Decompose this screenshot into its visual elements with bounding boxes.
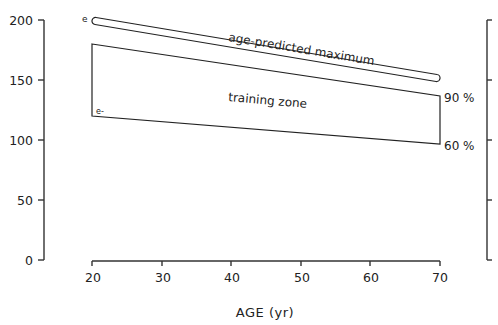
pct60-label: 60 % (444, 139, 475, 153)
heart-rate-chart: 200 150 100 50 0 20 30 40 50 60 70 AGE (… (0, 0, 498, 325)
x-tick-label: 60 (363, 270, 379, 285)
x-tick-label: 50 (294, 270, 310, 285)
y-tick-label: 50 (17, 193, 33, 208)
x-tick-label: 20 (85, 270, 101, 285)
y-tick-label: 100 (9, 133, 33, 148)
x-axis-title: AGE (yr) (236, 305, 294, 320)
e-mark: e (82, 14, 88, 24)
x-tick-label: 30 (155, 270, 171, 285)
y-tick-label: 200 (9, 13, 33, 28)
training-zone: e- training zone 90 % 60 % (92, 44, 475, 153)
y-axis-left: 200 150 100 50 0 (9, 13, 44, 268)
pct90-label: 90 % (444, 91, 475, 105)
age-predicted-maximum-band: e age-predicted maximum (82, 14, 440, 82)
max-label: age-predicted maximum (228, 30, 376, 68)
x-axis: 20 30 40 50 60 70 AGE (yr) (85, 261, 448, 320)
x-tick-label: 70 (432, 270, 448, 285)
y-tick-label: 0 (25, 253, 33, 268)
y-tick-label: 150 (9, 73, 33, 88)
x-tick-label: 40 (224, 270, 240, 285)
y-axis-right (487, 20, 492, 260)
e-mark: e- (96, 107, 104, 116)
zone-label: training zone (228, 90, 308, 111)
